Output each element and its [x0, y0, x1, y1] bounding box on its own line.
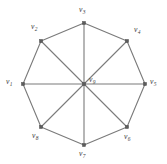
vertex-marker-v2: [39, 39, 42, 42]
rim-edge-v2-v3: [41, 23, 84, 41]
vertex-label-v6: v6: [124, 133, 130, 141]
rim-edge-v6-v7: [84, 127, 127, 145]
vertex-label-base-v7: v: [79, 149, 82, 158]
rim-edge-v1-v2: [23, 41, 41, 84]
vertex-label-v7: v7: [79, 150, 85, 158]
rim-edge-v7-v8: [41, 127, 84, 145]
rim-edge-v3-v4: [84, 23, 127, 41]
vertex-label-v2: v2: [31, 23, 37, 31]
vertex-marker-v1: [21, 82, 24, 85]
rim-edge-v4-v5: [127, 41, 145, 84]
spoke-edge-v9-v6: [84, 84, 127, 127]
vertex-label-base-v1: v: [6, 77, 9, 86]
vertex-label-base-v9: v: [89, 75, 92, 84]
vertex-label-v1: v1: [6, 78, 12, 86]
wheel-graph-figure: v1v2v3v4v5v6v7v8v9: [0, 0, 167, 164]
vertex-label-base-v8: v: [32, 131, 35, 140]
vertex-label-base-v3: v: [79, 5, 82, 14]
vertex-label-base-v6: v: [124, 132, 127, 141]
vertex-marker-v6: [125, 125, 128, 128]
vertex-label-v8: v8: [32, 132, 38, 140]
rim-edge-v5-v6: [127, 84, 145, 127]
vertex-label-v9: v9: [89, 76, 95, 84]
vertex-marker-v7: [82, 143, 85, 146]
spoke-edge-v9-v8: [41, 84, 84, 127]
vertex-label-v3: v3: [79, 6, 85, 14]
vertex-label-v5: v5: [150, 78, 156, 86]
vertex-label-v4: v4: [134, 26, 140, 34]
vertex-marker-v9: [82, 82, 85, 85]
vertex-label-base-v2: v: [31, 22, 34, 31]
spoke-edge-v9-v2: [41, 41, 84, 84]
vertex-marker-v5: [143, 82, 146, 85]
graph-canvas: [0, 0, 167, 164]
vertex-marker-v4: [125, 39, 128, 42]
vertex-marker-v8: [39, 125, 42, 128]
vertex-label-base-v5: v: [150, 77, 153, 86]
vertex-marker-v3: [82, 21, 85, 24]
rim-edge-v8-v1: [23, 84, 41, 127]
vertex-label-base-v4: v: [134, 25, 137, 34]
